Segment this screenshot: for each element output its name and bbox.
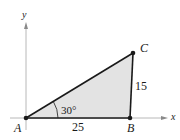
vertex-b-label: B <box>127 122 134 134</box>
vertex-c-label: C <box>140 42 148 54</box>
angle-a-measure: 30° <box>61 105 76 116</box>
diagram-canvas <box>0 0 180 140</box>
side-ab-length: 25 <box>72 121 84 133</box>
side-bc-length: 15 <box>135 80 147 92</box>
vertex-c-dot <box>131 51 136 56</box>
vertex-a-label: A <box>14 122 21 134</box>
triangle-diagram: y x A B C 25 15 30° <box>0 0 180 140</box>
y-axis-label: y <box>22 10 26 20</box>
x-axis-arrow-icon <box>161 116 168 120</box>
vertex-a-dot <box>24 116 29 121</box>
x-axis-label: x <box>171 112 175 122</box>
vertex-b-dot <box>128 116 133 121</box>
y-axis-arrow-icon <box>24 22 28 29</box>
